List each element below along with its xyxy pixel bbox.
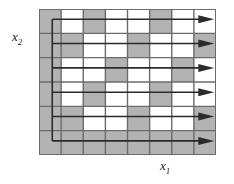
grid-cell [61,58,83,82]
grid-cell [128,33,150,57]
grid-cell [150,106,172,130]
grid-cell [83,131,105,155]
grid-cell [128,82,150,106]
grid-cell [83,33,105,57]
grid-cell [128,131,150,155]
grid-cell [172,82,194,106]
grid-cell [105,33,127,57]
grid-cell [39,58,61,82]
grid-cell [83,9,105,33]
grid-cell [172,58,194,82]
grid-cell [172,9,194,33]
grid-cell [105,82,127,106]
plot-area [39,9,216,155]
grid-cells [39,9,216,155]
grid-cell [150,131,172,155]
grid-cell [61,131,83,155]
grid-cell [83,82,105,106]
grid-cell [83,106,105,130]
grid-cell [105,131,127,155]
grid-cell [61,33,83,57]
x-axis-label-subscript: 1 [166,166,171,176]
y-axis-label: x2 [12,29,22,47]
grid-cell [150,82,172,106]
grid-cell [194,131,216,155]
grid-cell [105,106,127,130]
grid-cell [128,58,150,82]
grid-cell [150,9,172,33]
grid-cell [39,9,61,33]
grid-cell [172,33,194,57]
grid-cell [105,9,127,33]
grid-cell [172,131,194,155]
grid-cell [194,106,216,130]
grid-cell [105,58,127,82]
grid-cell [150,33,172,57]
grid-cell [39,82,61,106]
grid-cell [39,106,61,130]
x-axis-label: x1 [160,158,170,176]
grid-cell [194,33,216,57]
grid-cell [172,106,194,130]
grid-cell [194,9,216,33]
y-axis-label-subscript: 2 [18,37,23,47]
grid-cell [39,131,61,155]
grid-cell [128,106,150,130]
grid-cell [39,33,61,57]
grid-cell [83,58,105,82]
figure-canvas: x2 x1 [0,0,234,184]
grid-cell [128,9,150,33]
grid-cell [194,82,216,106]
grid-cell [194,58,216,82]
grid-cell [150,58,172,82]
grid-cell [61,106,83,130]
grid-cell [61,82,83,106]
grid-cell [61,9,83,33]
